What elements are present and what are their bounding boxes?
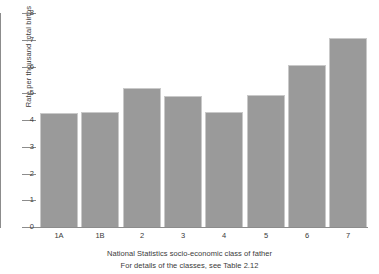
x-axis-tick-label: 2 bbox=[123, 232, 161, 240]
bar bbox=[123, 88, 161, 227]
x-axis-tick-label: 5 bbox=[247, 232, 285, 240]
bar-chart: Rate per thousand total births 012345678… bbox=[0, 0, 379, 274]
bar bbox=[288, 65, 326, 227]
bar bbox=[247, 95, 285, 227]
x-axis-label-note: For details of the classes, see Table 2.… bbox=[0, 261, 379, 270]
bar bbox=[329, 38, 367, 227]
x-axis-tick-label: 7 bbox=[329, 232, 367, 240]
x-axis-label: National Statistics socio-economic class… bbox=[0, 249, 379, 258]
bar bbox=[81, 112, 119, 227]
bar bbox=[164, 96, 202, 227]
bar bbox=[205, 112, 243, 227]
x-axis-tick-label: 4 bbox=[205, 232, 243, 240]
x-axis-tick-label: 6 bbox=[288, 232, 326, 240]
x-axis-tick-label: 3 bbox=[164, 232, 202, 240]
x-axis-tick-label: 1A bbox=[40, 232, 78, 240]
x-axis-tick-label: 1B bbox=[81, 232, 119, 240]
bar bbox=[40, 113, 78, 227]
